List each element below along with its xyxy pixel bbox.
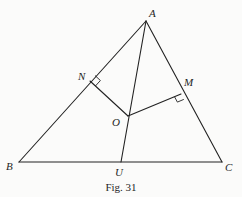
segment-AB (19, 21, 146, 162)
segment-OM (128, 94, 181, 116)
figure-caption: Fig. 31 (105, 181, 136, 193)
right-angle-mark-M (175, 97, 184, 102)
segment-AU (121, 21, 146, 162)
label-B: B (6, 160, 13, 172)
label-M: M (183, 76, 194, 88)
label-A: A (148, 7, 156, 19)
triangle-diagram: A B C N M O U Fig. 31 (0, 0, 242, 197)
label-O: O (112, 116, 120, 128)
label-N: N (77, 70, 86, 82)
label-C: C (225, 161, 233, 173)
label-U: U (115, 166, 124, 178)
segment-CA (146, 21, 222, 162)
geometry-figure: A B C N M O U Fig. 31 (0, 0, 242, 197)
